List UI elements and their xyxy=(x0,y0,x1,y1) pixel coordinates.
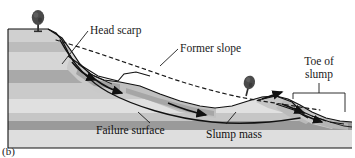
tree-foliage-shadow xyxy=(38,18,42,23)
figure-caption: (b) xyxy=(2,145,15,157)
slump-diagram-figure: Head scarp Former slope Toe of slump Fai… xyxy=(0,0,355,158)
label-toe-of-slump-line2: slump xyxy=(305,68,333,81)
stratum-5 xyxy=(0,83,355,99)
stratum-2 xyxy=(0,42,355,52)
tree-base xyxy=(34,31,42,33)
label-slump-mass: Slump mass xyxy=(206,128,262,141)
block-boundary-3 xyxy=(118,72,150,81)
tree-foliage xyxy=(242,74,256,90)
former-slope-leader-line xyxy=(160,49,178,66)
stratum-8 xyxy=(0,121,355,130)
ground-strata-group xyxy=(0,0,355,158)
label-toe-of-slump-line1: Toe of xyxy=(304,55,334,67)
stratum-1 xyxy=(0,26,355,42)
tree-trunk xyxy=(37,24,39,31)
label-head-scarp: Head scarp xyxy=(90,24,142,37)
label-former-slope: Former slope xyxy=(180,42,241,55)
stratum-3 xyxy=(0,52,355,70)
tree-foliage xyxy=(32,10,44,25)
tree-foliage-highlight xyxy=(34,12,39,18)
tree-on-slump-block xyxy=(241,74,257,97)
cross-section-svg: Head scarp Former slope Toe of slump Fai… xyxy=(0,0,355,158)
tree-trunk xyxy=(245,88,249,96)
stratum-9 xyxy=(0,130,355,150)
label-failure-surface: Failure surface xyxy=(96,124,165,136)
